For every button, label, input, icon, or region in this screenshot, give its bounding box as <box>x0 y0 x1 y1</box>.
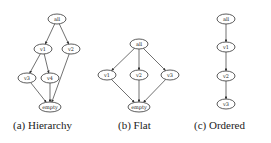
svg-text:v3: v3 <box>166 72 173 78</box>
node-flat-empty: empty <box>128 102 150 112</box>
svg-text:v2: v2 <box>135 72 142 78</box>
edge-hierarchy-v1-v3 <box>30 54 41 73</box>
node-flat-v3: v3 <box>161 70 179 80</box>
node-hierarchy-v4: v4 <box>41 73 59 83</box>
node-ordered-v1: v1 <box>217 42 235 52</box>
edge-flat-v1-empty <box>111 79 134 102</box>
edges-layer <box>30 24 226 103</box>
svg-text:v2: v2 <box>67 46 74 52</box>
edge-hierarchy-v1-v4 <box>44 54 49 73</box>
node-flat-all: all <box>130 39 148 49</box>
edge-hierarchy-all-v1 <box>45 24 54 44</box>
node-flat-v1: v1 <box>98 70 116 80</box>
node-hierarchy-v2: v2 <box>62 44 80 54</box>
edge-hierarchy-v3-empty <box>31 83 47 103</box>
edge-hierarchy-all-v2 <box>59 24 68 44</box>
node-flat-v2: v2 <box>130 70 148 80</box>
caption-ordered: (c) Ordered <box>194 119 245 131</box>
edge-flat-all-v1 <box>111 48 134 70</box>
node-hierarchy-all: all <box>48 14 66 24</box>
svg-text:v4: v4 <box>46 75 53 81</box>
node-hierarchy-empty: empty <box>39 102 61 112</box>
caption-hierarchy: (a) Hierarchy <box>13 119 72 131</box>
node-hierarchy-v1: v1 <box>34 44 52 54</box>
svg-text:all: all <box>223 16 230 22</box>
svg-text:empty: empty <box>131 104 147 111</box>
node-ordered-v2: v2 <box>217 71 235 81</box>
svg-text:v1: v1 <box>222 44 229 50</box>
svg-text:v3: v3 <box>222 101 229 107</box>
edge-flat-v3-empty <box>143 79 165 102</box>
node-ordered-v3: v3 <box>217 99 235 109</box>
svg-text:v2: v2 <box>222 73 229 79</box>
svg-text:empty: empty <box>42 104 58 111</box>
svg-text:v3: v3 <box>23 75 30 81</box>
node-ordered-all: all <box>217 14 235 24</box>
nodes-layer: allv1v2v3v4emptyallv1v2v3emptyallv1v2v3 <box>18 14 235 112</box>
edge-flat-all-v3 <box>143 48 165 70</box>
caption-flat: (b) Flat <box>118 119 151 131</box>
svg-text:all: all <box>136 41 143 47</box>
svg-text:v1: v1 <box>39 46 46 52</box>
svg-text:v1: v1 <box>103 72 110 78</box>
svg-text:all: all <box>54 16 61 22</box>
node-hierarchy-v3: v3 <box>18 73 36 83</box>
